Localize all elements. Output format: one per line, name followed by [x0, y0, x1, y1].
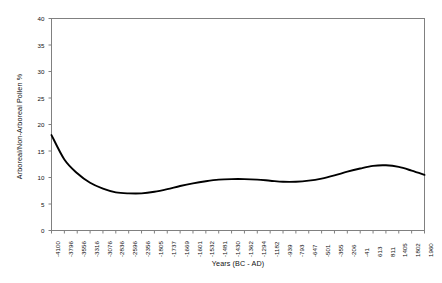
x-tick-label: -1669 [183, 241, 190, 257]
x-tick-label: -2836 [118, 241, 125, 257]
y-tick-label: 10 [25, 174, 45, 181]
data-series-line [52, 135, 425, 193]
y-tick-label: 0 [25, 227, 45, 234]
x-tick-label: -3796 [67, 241, 74, 257]
x-tick-label: 613 [376, 246, 383, 256]
y-tick-label: 5 [25, 201, 45, 208]
y-tick-label: 35 [25, 42, 45, 49]
x-tick-label: -1182 [273, 241, 280, 256]
x-tick-label: -647 [311, 244, 318, 256]
y-tick-label: 20 [25, 121, 45, 128]
x-tick-label: 1802 [414, 243, 421, 257]
x-tick-label: -2356 [144, 241, 151, 257]
pollen-percentage-line-chart: Arboreal/Non-Arboreal Pollen % 051015202… [0, 0, 442, 283]
y-tick-label: 25 [25, 95, 45, 102]
x-tick-label: -1430 [234, 241, 241, 257]
x-tick-label: -3316 [93, 241, 100, 257]
x-tick-label: -1805 [157, 241, 164, 257]
x-tick-label: -1532 [208, 241, 215, 257]
x-tick-label: -355 [337, 244, 344, 256]
x-tick-label: -41 [363, 248, 370, 257]
x-tick-label: -1362 [247, 241, 254, 257]
y-tick-label: 40 [25, 15, 45, 22]
x-tick-label: 1960 [427, 243, 434, 257]
x-tick-label: -939 [286, 244, 293, 256]
x-tick-label: -1737 [170, 241, 177, 257]
x-tick-label: -2596 [131, 241, 138, 257]
y-tick-label: 30 [25, 68, 45, 75]
x-tick-label: 811 [389, 247, 396, 257]
x-tick-label: -3076 [106, 241, 113, 257]
x-tick-label: -1294 [260, 241, 267, 257]
x-axis-title: Years (BC - AD) [51, 259, 425, 268]
plot-frame [52, 19, 425, 231]
x-tick-label: 1405 [401, 243, 408, 257]
x-tick-label: -1601 [196, 241, 203, 257]
x-tick-label: -793 [298, 244, 305, 256]
x-tick-label: -1481 [221, 241, 228, 257]
x-tick-label: -206 [350, 244, 357, 256]
x-tick-label: -4100 [54, 241, 61, 257]
y-tick-label: 15 [25, 148, 45, 155]
x-tick-label: -3556 [80, 241, 87, 257]
x-tick-label: -501 [324, 244, 331, 256]
